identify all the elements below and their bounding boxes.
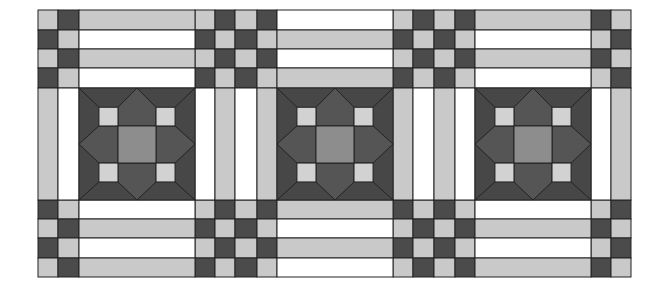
horizontal-sashing-strip xyxy=(475,238,591,258)
four-patch-cell xyxy=(434,219,455,238)
four-patch-cell xyxy=(611,68,631,88)
four-patch-cell xyxy=(591,10,611,30)
corner-square xyxy=(156,163,175,182)
center-square xyxy=(316,126,354,163)
four-patch-cell xyxy=(611,10,631,30)
four-patch-cell xyxy=(393,68,413,88)
four-patch-cell xyxy=(257,68,277,88)
corner-square xyxy=(495,163,514,182)
four-patch-cell xyxy=(611,200,631,219)
four-patch-cell xyxy=(393,258,413,277)
four-patch-cell xyxy=(393,200,413,219)
four-patch-cell xyxy=(434,258,455,277)
four-patch-cell xyxy=(455,219,475,238)
four-patch-cell xyxy=(215,238,235,258)
horizontal-sashing-strip xyxy=(277,258,393,277)
vertical-sashing-strip xyxy=(413,88,434,200)
four-patch-cell xyxy=(591,238,611,258)
four-patch-cell xyxy=(393,49,413,68)
vertical-sashing-strip xyxy=(434,88,455,200)
horizontal-sashing-strip xyxy=(277,10,393,30)
four-patch-cell xyxy=(591,30,611,49)
vertical-sashing-strip xyxy=(257,88,277,200)
four-patch-cell xyxy=(38,219,58,238)
corner-square xyxy=(297,107,316,126)
vertical-sashing-strip xyxy=(393,88,413,200)
horizontal-sashing-strip xyxy=(79,200,195,219)
four-patch-cell xyxy=(235,68,257,88)
vertical-sashing-strip xyxy=(195,88,215,200)
vertical-sashing-strip xyxy=(591,88,611,200)
four-patch-cell xyxy=(413,30,434,49)
horizontal-sashing-strip xyxy=(475,258,591,277)
four-patch-cell xyxy=(215,49,235,68)
four-patch-cell xyxy=(413,68,434,88)
corner-square xyxy=(552,107,571,126)
four-patch-cell xyxy=(455,30,475,49)
four-patch-cell xyxy=(393,10,413,30)
four-patch-cell xyxy=(235,219,257,238)
four-patch-cell xyxy=(195,49,215,68)
horizontal-sashing-strip xyxy=(475,30,591,49)
four-patch-cell xyxy=(235,238,257,258)
four-patch-cell xyxy=(434,10,455,30)
four-patch-cell xyxy=(611,49,631,68)
four-patch-cell xyxy=(38,68,58,88)
four-patch-cell xyxy=(38,200,58,219)
four-patch-cell xyxy=(58,49,79,68)
four-patch-cell xyxy=(38,49,58,68)
corner-square xyxy=(156,107,175,126)
vertical-sashing-strip xyxy=(215,88,235,200)
quilt-diagram xyxy=(0,0,663,294)
four-patch-cell xyxy=(591,258,611,277)
horizontal-sashing-strip xyxy=(79,49,195,68)
corner-square xyxy=(99,107,118,126)
four-patch-cell xyxy=(38,10,58,30)
horizontal-sashing-strip xyxy=(475,200,591,219)
four-patch-cell xyxy=(455,10,475,30)
four-patch-cell xyxy=(215,200,235,219)
horizontal-sashing-strip xyxy=(277,49,393,68)
four-patch-cell xyxy=(195,68,215,88)
horizontal-sashing-strip xyxy=(277,238,393,258)
four-patch-cell xyxy=(257,200,277,219)
corner-square xyxy=(495,107,514,126)
horizontal-sashing-strip xyxy=(475,68,591,88)
four-patch-cell xyxy=(215,68,235,88)
four-patch-cell xyxy=(58,258,79,277)
four-patch-cell xyxy=(434,238,455,258)
four-patch-cell xyxy=(455,49,475,68)
four-patch-cell xyxy=(257,238,277,258)
corner-square xyxy=(297,163,316,182)
four-patch-cell xyxy=(257,10,277,30)
center-square xyxy=(118,126,156,163)
four-patch-cell xyxy=(215,10,235,30)
four-patch-cell xyxy=(235,49,257,68)
horizontal-sashing-strip xyxy=(79,238,195,258)
four-patch-cell xyxy=(58,219,79,238)
four-patch-cell xyxy=(393,30,413,49)
horizontal-sashing-strip xyxy=(475,49,591,68)
four-patch-cell xyxy=(215,30,235,49)
four-patch-cell xyxy=(591,68,611,88)
four-patch-cell xyxy=(38,238,58,258)
four-patch-cell xyxy=(235,258,257,277)
horizontal-sashing-strip xyxy=(475,219,591,238)
horizontal-sashing-strip xyxy=(277,219,393,238)
four-patch-cell xyxy=(393,238,413,258)
vertical-sashing-strip xyxy=(38,88,58,200)
four-patch-cell xyxy=(58,10,79,30)
horizontal-sashing-strip xyxy=(475,10,591,30)
four-patch-cell xyxy=(434,68,455,88)
corner-square xyxy=(552,163,571,182)
star-blocks xyxy=(79,88,591,200)
four-patch-cell xyxy=(393,219,413,238)
four-patch-cell xyxy=(58,200,79,219)
four-patch-cell xyxy=(455,258,475,277)
four-patch-cell xyxy=(434,30,455,49)
vertical-sashing-strip xyxy=(235,88,257,200)
four-patch-cell xyxy=(235,30,257,49)
horizontal-sashing-strip xyxy=(79,30,195,49)
four-patch-cell xyxy=(38,30,58,49)
star-block-3 xyxy=(475,88,591,200)
